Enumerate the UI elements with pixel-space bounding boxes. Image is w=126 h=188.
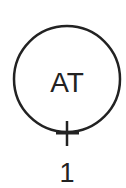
connection-cross-icon — [56, 121, 79, 146]
instrument-symbol: AT 1 — [0, 0, 126, 188]
instrument-function-letters: AT — [50, 67, 84, 98]
instrument-tag-number: 1 — [59, 158, 74, 188]
